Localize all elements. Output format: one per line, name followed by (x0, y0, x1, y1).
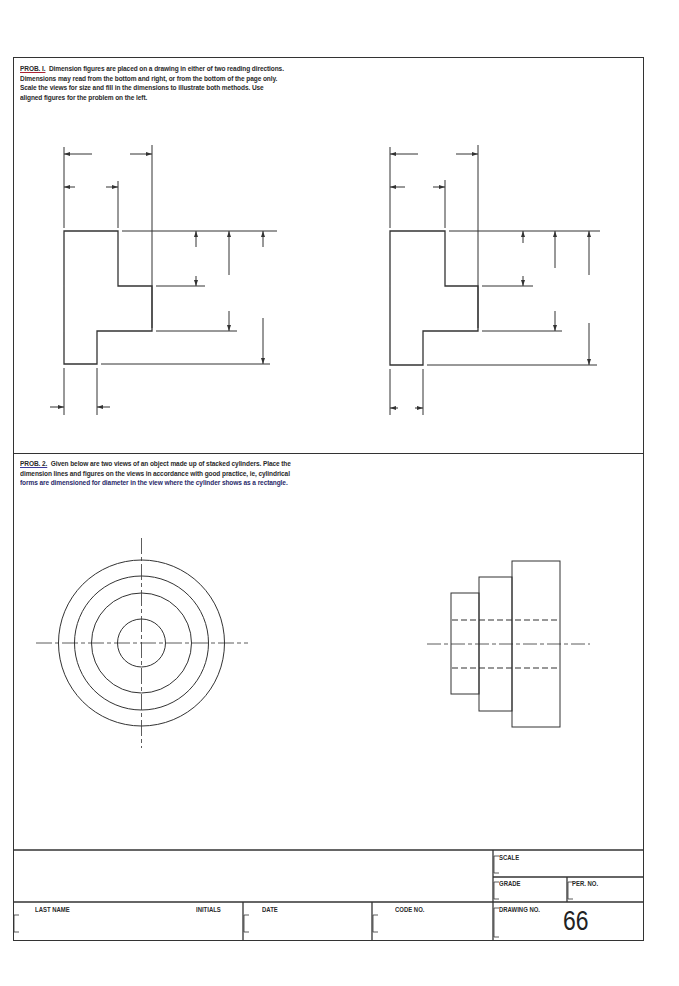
prob2-line-3: forms are dimensioned for diameter in th… (20, 478, 424, 488)
prob1-line-1: Dimension figures are placed on a drawin… (49, 64, 284, 73)
problem-divider (14, 453, 643, 454)
prob2-instructions: PROB. 2. Given below are two views of an… (20, 459, 424, 488)
grade-field-label: GRADE (499, 880, 520, 887)
prob2-label: PROB. 2. (20, 459, 47, 468)
prob1-label: PROB. I. (20, 64, 45, 73)
per-no-field-label: PER. NO. (572, 880, 598, 887)
prob1-line-2: Dimensions may read from the bottom and … (20, 74, 424, 84)
drawing-number: 66 (563, 906, 589, 937)
code-no-field-label: CODE NO. (395, 906, 424, 913)
scale-field-label: SCALE (499, 854, 519, 861)
prob1-instructions: PROB. I. Dimension figures are placed on… (20, 64, 424, 102)
drawing-no-field-label: DRAWING NO. (499, 906, 540, 913)
last-name-field-label: LAST NAME (35, 906, 70, 913)
drawing-sheet-border (13, 57, 644, 941)
date-field-label: DATE (262, 906, 278, 913)
prob2-line-1: Given below are two views of an object m… (51, 459, 291, 468)
prob1-line-3: Scale the views for size and fill in the… (20, 83, 424, 93)
prob1-line-4: aligned figures for the problem on the l… (20, 93, 424, 103)
prob2-line-2: dimension lines and figures on the views… (20, 469, 424, 479)
initials-field-label: INITIALS (196, 906, 221, 913)
